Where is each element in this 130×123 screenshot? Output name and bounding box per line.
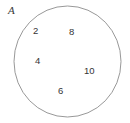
set-a-circle (14, 6, 121, 117)
set-element: 2 (33, 26, 38, 36)
set-element: 10 (84, 66, 95, 76)
set-element: 6 (58, 86, 63, 96)
set-circle-layer (0, 0, 130, 123)
set-element: 4 (35, 56, 40, 66)
set-element: 8 (69, 27, 74, 37)
set-diagram-canvas: A 2 8 4 10 6 (0, 0, 130, 123)
set-label-a: A (8, 5, 15, 16)
